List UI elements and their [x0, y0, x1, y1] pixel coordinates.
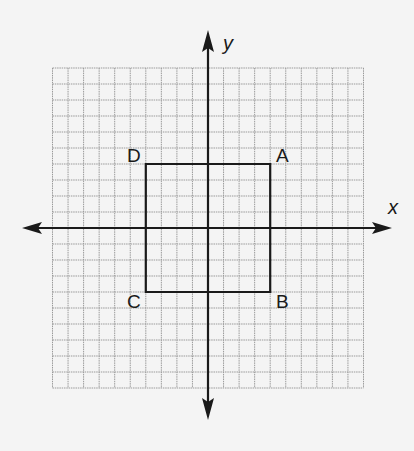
y-axis-label: y: [223, 33, 233, 53]
vertex-label-c: C: [127, 292, 141, 311]
x-axis-label: x: [388, 197, 398, 217]
vertex-label-d: D: [127, 146, 141, 165]
vertex-label-b: B: [276, 292, 289, 311]
vertex-label-a: A: [276, 146, 289, 165]
coordinate-plane-figure: y x A B C D: [0, 0, 414, 451]
coordinate-grid: [0, 0, 414, 451]
